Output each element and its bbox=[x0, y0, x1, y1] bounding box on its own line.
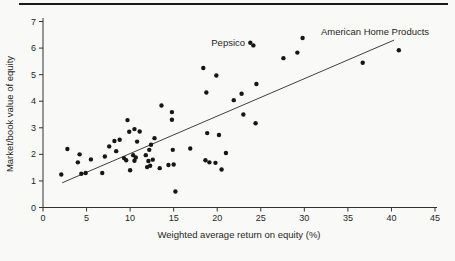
data-point bbox=[77, 152, 81, 156]
data-point bbox=[173, 189, 177, 193]
y-tick-label: 5 bbox=[31, 70, 36, 80]
data-point bbox=[144, 153, 148, 157]
data-point bbox=[107, 144, 111, 148]
data-point bbox=[83, 171, 87, 175]
data-point bbox=[125, 118, 129, 122]
point-label: Pepsico bbox=[211, 37, 245, 48]
data-point bbox=[204, 90, 208, 94]
data-point bbox=[135, 139, 139, 143]
data-point bbox=[254, 82, 258, 86]
data-point bbox=[132, 127, 136, 131]
x-tick-label: 30 bbox=[299, 213, 309, 223]
x-tick-label: 45 bbox=[430, 213, 440, 223]
data-point bbox=[59, 172, 63, 176]
x-axis-title: Weighted average return on equity (%) bbox=[158, 229, 321, 240]
data-point bbox=[171, 162, 175, 166]
data-point bbox=[295, 50, 299, 54]
data-point bbox=[166, 163, 170, 167]
data-point bbox=[207, 160, 211, 164]
scatter-chart: 05101520253035404501234567PepsicoAmerica… bbox=[0, 0, 455, 261]
data-point bbox=[241, 112, 245, 116]
data-point bbox=[65, 147, 69, 151]
data-point bbox=[158, 166, 162, 170]
x-tick-label: 20 bbox=[212, 213, 222, 223]
data-point bbox=[159, 103, 163, 107]
data-point bbox=[128, 168, 132, 172]
data-point bbox=[112, 139, 116, 143]
point-label: American Home Products bbox=[321, 26, 429, 37]
x-tick-label: 0 bbox=[40, 213, 45, 223]
y-tick-label: 0 bbox=[31, 203, 36, 213]
data-point bbox=[205, 131, 209, 135]
y-axis-title: Market/book value of equity bbox=[4, 56, 15, 172]
data-point bbox=[149, 143, 153, 147]
x-tick-label: 25 bbox=[256, 213, 266, 223]
data-point bbox=[232, 98, 236, 102]
data-point bbox=[147, 148, 151, 152]
data-point bbox=[100, 171, 104, 175]
data-point bbox=[188, 146, 192, 150]
data-point bbox=[203, 158, 207, 162]
data-point bbox=[76, 160, 80, 164]
data-point bbox=[79, 172, 83, 176]
x-tick-label: 10 bbox=[125, 213, 135, 223]
data-point bbox=[114, 149, 118, 153]
data-point bbox=[281, 56, 285, 60]
data-point bbox=[253, 121, 257, 125]
x-tick-label: 35 bbox=[343, 213, 353, 223]
data-point bbox=[170, 110, 174, 114]
data-point bbox=[217, 133, 221, 137]
data-point bbox=[89, 157, 93, 161]
y-tick-label: 2 bbox=[31, 149, 36, 159]
data-point bbox=[219, 167, 223, 171]
data-point bbox=[146, 159, 150, 163]
y-tick-label: 6 bbox=[31, 43, 36, 53]
data-point bbox=[224, 151, 228, 155]
data-point bbox=[170, 118, 174, 122]
y-tick-label: 3 bbox=[31, 123, 36, 133]
x-tick-label: 15 bbox=[169, 213, 179, 223]
data-point bbox=[148, 164, 152, 168]
data-point bbox=[127, 130, 131, 134]
data-point bbox=[137, 129, 141, 133]
y-tick-label: 4 bbox=[31, 96, 36, 106]
x-tick-label: 40 bbox=[386, 213, 396, 223]
trend-line bbox=[62, 40, 394, 183]
data-point bbox=[117, 138, 121, 142]
data-point bbox=[360, 60, 364, 64]
data-point bbox=[201, 66, 205, 70]
data-point bbox=[132, 159, 136, 163]
x-tick-label: 5 bbox=[84, 213, 89, 223]
data-point bbox=[239, 92, 243, 96]
data-point bbox=[103, 154, 107, 158]
data-point bbox=[213, 161, 217, 165]
y-tick-label: 7 bbox=[31, 17, 36, 27]
data-point bbox=[152, 136, 156, 140]
data-point bbox=[300, 36, 304, 40]
data-point bbox=[171, 148, 175, 152]
data-point bbox=[151, 157, 155, 161]
data-point bbox=[251, 43, 255, 47]
data-point bbox=[397, 48, 401, 52]
data-point bbox=[214, 73, 218, 77]
y-tick-label: 1 bbox=[31, 176, 36, 186]
data-point bbox=[124, 158, 128, 162]
